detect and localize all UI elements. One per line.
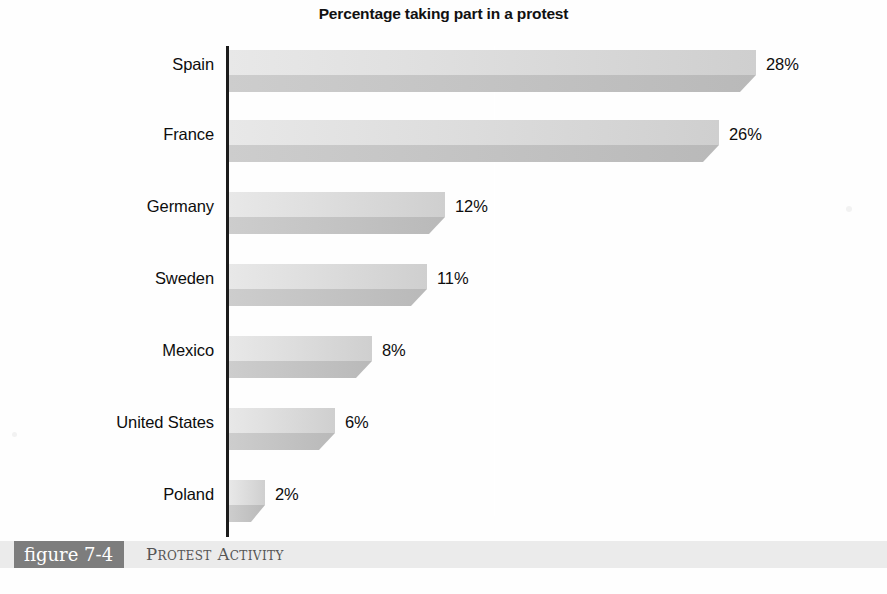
bar-bottom-face xyxy=(229,361,372,378)
bar-category-label: France xyxy=(0,125,214,144)
plot-area: Spain 28% France 26% Germany 12% xyxy=(0,44,887,536)
bar-value-label: 12% xyxy=(455,197,488,216)
bar-row: Poland 2% xyxy=(0,480,887,546)
bar-row: Mexico 8% xyxy=(0,336,887,402)
bar-row: France 26% xyxy=(0,120,887,186)
bar-row: Germany 12% xyxy=(0,192,887,258)
bar-top-face xyxy=(229,192,445,217)
bar-value-label: 11% xyxy=(437,269,469,288)
bar-top-face xyxy=(229,264,427,289)
bar-category-label: Mexico xyxy=(0,341,214,360)
bar-value-label: 2% xyxy=(275,485,299,504)
bar-value-label: 6% xyxy=(345,413,369,432)
bar-value-label: 26% xyxy=(729,125,762,144)
bar-row: Sweden 11% xyxy=(0,264,887,330)
bar-category-label: United States xyxy=(0,413,214,432)
scan-artifact xyxy=(846,206,852,212)
figure-number-badge: figure 7-4 xyxy=(14,541,124,568)
bar-top-face xyxy=(229,336,372,361)
scan-artifact xyxy=(12,432,17,437)
bar-top-face xyxy=(229,50,756,75)
bar-category-label: Sweden xyxy=(0,269,214,288)
bar-bottom-face xyxy=(229,145,719,162)
bar-bottom-face xyxy=(229,217,445,234)
bar-value-label: 28% xyxy=(766,55,799,74)
bar-category-label: Poland xyxy=(0,485,214,504)
bar-row: United States 6% xyxy=(0,408,887,474)
bar-row: Spain 28% xyxy=(0,50,887,116)
bar-top-face xyxy=(229,408,335,433)
bar-top-face xyxy=(229,120,719,145)
bar-top-face xyxy=(229,480,265,505)
bar-value-label: 8% xyxy=(382,341,406,360)
figure-container: Percentage taking part in a protest Spai… xyxy=(0,0,887,594)
bar-category-label: Spain xyxy=(0,55,214,74)
chart-title: Percentage taking part in a protest xyxy=(0,5,887,23)
bar-bottom-face xyxy=(229,433,335,450)
bar-bottom-face xyxy=(229,75,756,92)
figure-caption-title: Protest Activity xyxy=(146,541,284,568)
bar-bottom-face xyxy=(229,289,427,306)
bar-bottom-face xyxy=(229,505,265,522)
figure-caption-bar: figure 7-4 Protest Activity xyxy=(0,541,887,568)
bar-category-label: Germany xyxy=(0,197,214,216)
